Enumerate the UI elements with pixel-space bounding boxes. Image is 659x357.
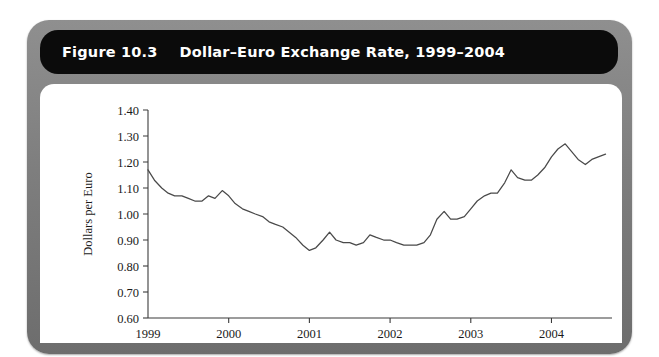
plot-panel: 1.401.301.201.101.000.900.800.700.60 199… <box>40 84 622 343</box>
y-axis-ticks: 1.401.301.201.101.000.900.800.700.60 <box>117 104 148 326</box>
x-tick-label: 2000 <box>216 327 241 341</box>
figure-title-bar: Figure 10.3 Dollar–Euro Exchange Rate, 1… <box>40 30 618 74</box>
figure-number-label: Figure 10.3 <box>62 44 158 60</box>
x-tick-label: 1999 <box>136 327 161 341</box>
y-tick-label: 1.20 <box>117 156 139 170</box>
line-chart: 1.401.301.201.101.000.900.800.700.60 199… <box>40 84 622 343</box>
x-tick-label: 2001 <box>297 327 322 341</box>
x-tick-label: 2003 <box>458 327 483 341</box>
x-tick-label: 2004 <box>539 327 565 341</box>
y-tick-label: 0.80 <box>117 260 139 274</box>
y-tick-label: 1.40 <box>117 104 139 118</box>
y-tick-label: 0.70 <box>117 286 139 300</box>
y-tick-label: 0.90 <box>117 234 139 248</box>
y-tick-label: 1.10 <box>117 182 139 196</box>
figure-title-text: Dollar–Euro Exchange Rate, 1999–2004 <box>180 44 506 60</box>
x-tick-label: 2002 <box>378 327 403 341</box>
y-tick-label: 1.30 <box>117 130 139 144</box>
y-axis-label: Dollars per Euro <box>81 172 95 255</box>
y-tick-label: 1.00 <box>117 208 139 222</box>
figure-container: Figure 10.3 Dollar–Euro Exchange Rate, 1… <box>0 0 659 357</box>
y-tick-label: 0.60 <box>117 312 139 326</box>
data-series-line <box>148 144 606 251</box>
x-axis-ticks: 199920002001200220032004 <box>136 318 565 341</box>
